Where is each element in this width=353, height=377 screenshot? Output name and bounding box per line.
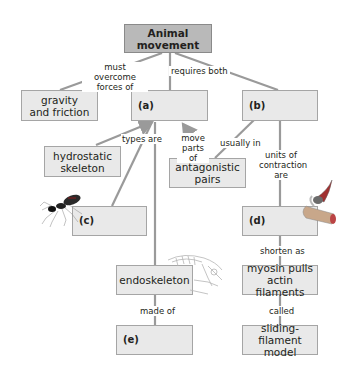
link-label-must-overcome: must overcome forces of <box>82 62 148 92</box>
node-label: Animal movement <box>125 27 211 51</box>
node-label: gravity and friction <box>30 94 90 118</box>
node-label: antagonistic pairs <box>175 161 240 185</box>
node-a-blank[interactable]: (a) <box>131 90 208 121</box>
node-sliding-filament: sliding-filament model <box>242 325 318 355</box>
node-label: (a) <box>138 100 154 112</box>
node-label: (d) <box>249 215 265 227</box>
link-label-requires-both: requires both <box>169 66 230 76</box>
concept-map: Animal movement gravity and friction (a)… <box>0 0 353 377</box>
link-label-shorten-as: shorten as <box>258 246 307 256</box>
node-hydrostatic-skeleton: hydrostatic skeleton <box>44 146 121 177</box>
link-label-units-of-contraction: units of contraction are <box>259 150 303 180</box>
link-label-types-are: types are <box>121 134 163 144</box>
node-label: (e) <box>123 334 139 346</box>
node-label: (b) <box>249 100 265 112</box>
link-label-called: called <box>267 306 296 316</box>
node-myosin-actin: myosin pulls actin filaments <box>242 265 318 295</box>
node-e-blank[interactable]: (e) <box>116 325 193 355</box>
node-label: sliding-filament model <box>243 322 317 358</box>
link-label-made-of: made of <box>138 306 177 316</box>
node-label: myosin pulls actin filaments <box>243 262 317 298</box>
node-animal-movement: Animal movement <box>124 24 212 53</box>
ant-icon <box>38 192 88 228</box>
muscle-fiber-icon <box>296 178 341 233</box>
link-label-move-parts-of: move parts of <box>177 133 209 163</box>
node-b-blank[interactable]: (b) <box>242 90 318 121</box>
skeleton-icon <box>164 250 226 298</box>
node-gravity-friction: gravity and friction <box>21 90 98 121</box>
node-label: hydrostatic skeleton <box>53 150 112 174</box>
link-label-usually-in: usually in <box>219 138 262 148</box>
